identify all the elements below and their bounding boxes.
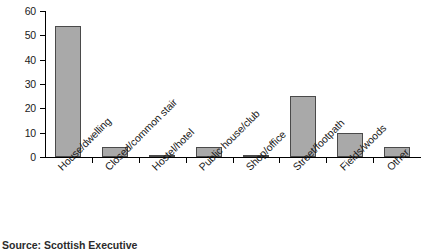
x-tick-mark [186,158,187,163]
bar-chart: 0102030405060 House/dwellingClosed/commo… [0,0,437,252]
y-tick-mark [40,84,45,85]
x-tick-mark [326,158,327,163]
y-tick-label: 20 [6,103,36,114]
x-tick-mark [139,158,140,163]
y-tick-mark [40,108,45,109]
x-tick-mark [279,158,280,163]
x-category-label: Shop/office [244,129,288,173]
x-tick-mark [92,158,93,163]
y-tick-label: 0 [6,152,36,163]
x-category-label: Hostel/hotel [150,127,196,173]
y-tick-mark [40,35,45,36]
source-note: Source: Scottish Executive [2,240,137,251]
y-tick-mark [40,133,45,134]
bar [55,26,81,157]
y-tick-label: 50 [6,30,36,41]
y-tick-label: 40 [6,55,36,66]
y-axis-line [45,11,46,158]
y-tick-label: 10 [6,128,36,139]
x-tick-mark [233,158,234,163]
y-tick-mark [40,60,45,61]
y-tick-label: 60 [6,6,36,17]
y-tick-mark [40,11,45,12]
y-tick-mark [40,157,45,158]
x-tick-mark [373,158,374,163]
y-tick-label: 30 [6,79,36,90]
